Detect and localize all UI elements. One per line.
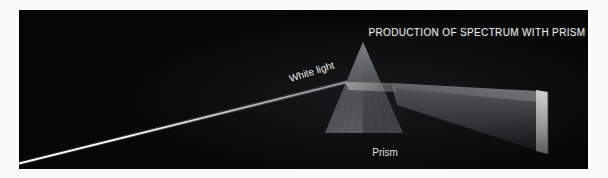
prism-label: Prism	[345, 147, 425, 158]
photographic-plate: PRODUCTION OF SPECTRUM WITH PRISM White …	[19, 10, 588, 169]
figure-root: PRODUCTION OF SPECTRUM WITH PRISM White …	[0, 0, 608, 178]
spectrum-on-screen	[536, 90, 548, 154]
page-title: PRODUCTION OF SPECTRUM WITH PRISM	[352, 27, 588, 38]
